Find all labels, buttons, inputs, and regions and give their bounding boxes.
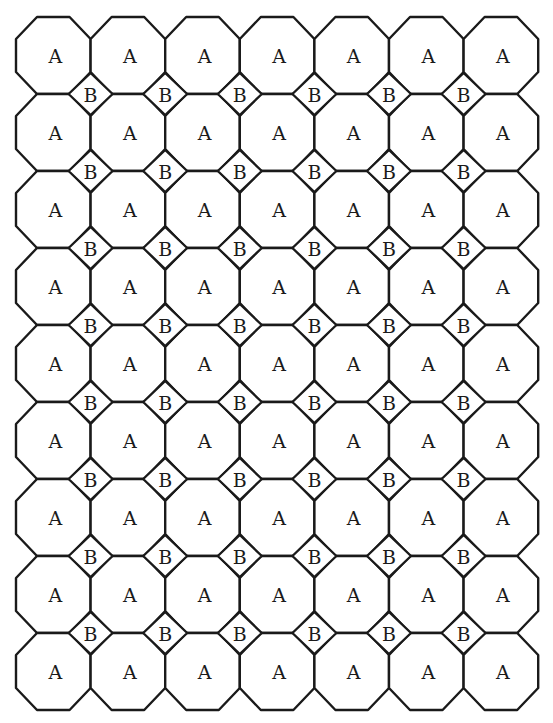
octagon-label: A [197,430,212,452]
octagon-label: A [420,276,435,298]
octagon-label: A [47,430,62,452]
octagon-label: A [197,661,212,683]
diamond-label: B [158,469,172,491]
octagon-label: A [346,122,361,144]
diamond-label: B [158,546,172,568]
octagon-label: A [495,199,510,221]
octagon-label: A [122,430,137,452]
octagon-label: A [495,45,510,67]
diamond-label: B [307,84,321,106]
diamond-label: B [382,315,396,337]
diamond-label: B [457,161,471,183]
diamond-label: B [84,161,98,183]
octagon-label: A [122,584,137,606]
octagon-tiles: AAAAAAAAAAAAAAAAAAAAAAAAAAAAAAAAAAAAAAAA… [16,17,538,710]
diamond-label: B [158,84,172,106]
octagon-label: A [271,661,286,683]
diamond-label: B [457,392,471,414]
octagon-label: A [271,584,286,606]
octagon-label: A [197,353,212,375]
octagon-label: A [122,45,137,67]
octagon-label: A [495,661,510,683]
octagon-label: A [346,353,361,375]
diamond-label: B [233,392,247,414]
octagon-label: A [346,584,361,606]
octagon-label: A [47,276,62,298]
diamond-label: B [233,469,247,491]
octagon-label: A [420,353,435,375]
octagon-label: A [122,122,137,144]
octagon-label: A [420,45,435,67]
diamond-label: B [382,84,396,106]
diamond-label: B [233,238,247,260]
octagon-label: A [420,661,435,683]
diamond-label: B [382,392,396,414]
octagon-label: A [420,584,435,606]
diamond-label: B [307,161,321,183]
diamond-label: B [84,392,98,414]
octagon-label: A [197,507,212,529]
diamond-label: B [84,546,98,568]
octagon-label: A [271,45,286,67]
octagon-label: A [420,122,435,144]
diamond-label: B [307,238,321,260]
diamond-label: B [457,84,471,106]
octagon-label: A [495,430,510,452]
octagon-label: A [495,507,510,529]
octagon-label: A [47,584,62,606]
diamond-label: B [382,238,396,260]
diamond-label: B [457,238,471,260]
octagon-label: A [197,122,212,144]
octagon-label: A [271,353,286,375]
octagon-label: A [122,507,137,529]
octagon-label: A [122,661,137,683]
tiling-diagram: AAAAAAAAAAAAAAAAAAAAAAAAAAAAAAAAAAAAAAAA… [0,0,553,723]
octagon-label: A [197,584,212,606]
diamond-label: B [233,315,247,337]
diamond-label: B [84,238,98,260]
octagon-label: A [420,199,435,221]
octagon-label: A [197,45,212,67]
diamond-label: B [158,238,172,260]
octagon-label: A [122,199,137,221]
diamond-label: B [307,469,321,491]
octagon-label: A [271,430,286,452]
diamond-label: B [233,623,247,645]
octagon-label: A [47,661,62,683]
octagon-label: A [495,584,510,606]
diamond-label: B [382,623,396,645]
octagon-label: A [420,507,435,529]
octagon-label: A [346,430,361,452]
octagon-label: A [271,122,286,144]
octagon-label: A [495,122,510,144]
diamond-label: B [233,84,247,106]
octagon-label: A [346,199,361,221]
diamond-label: B [382,546,396,568]
octagon-label: A [197,199,212,221]
diamond-label: B [84,315,98,337]
diamond-label: B [233,161,247,183]
diamond-label: B [158,623,172,645]
octagon-label: A [197,276,212,298]
diamond-label: B [307,315,321,337]
octagon-label: A [47,353,62,375]
diamond-label: B [233,546,247,568]
octagon-label: A [47,45,62,67]
diamond-label: B [307,623,321,645]
octagon-label: A [271,199,286,221]
diamond-label: B [307,546,321,568]
octagon-label: A [346,661,361,683]
octagon-label: A [346,45,361,67]
diamond-label: B [457,546,471,568]
octagon-label: A [346,507,361,529]
diamond-label: B [84,84,98,106]
octagon-label: A [47,199,62,221]
octagon-label: A [122,353,137,375]
diamond-label: B [158,392,172,414]
diamond-label: B [457,623,471,645]
diamond-label: B [457,315,471,337]
diamond-label: B [307,392,321,414]
octagon-label: A [47,507,62,529]
octagon-label: A [271,507,286,529]
octagon-label: A [495,276,510,298]
